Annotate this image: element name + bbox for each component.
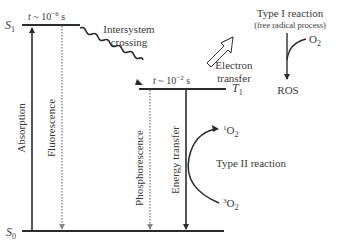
- fluorescence-arrow: Fluorescence: [45, 26, 62, 229]
- electron-transfer-arrow: Electron transfer: [207, 37, 253, 84]
- svg-text:S1: S1: [5, 18, 15, 34]
- energy-transfer-arrow: Energy transfer: [169, 90, 186, 229]
- type2-reaction: 1O2 3O2 Type II reaction: [188, 124, 286, 212]
- jablonski-diagram: S1 tt ~ 10 ~ 10−6 s T1 tt ~ 10 ~ 10−2 s …: [0, 0, 337, 246]
- electron-transfer-label-line1: Electron: [215, 59, 253, 71]
- type1-reaction: Type I reaction (free radical process) O…: [254, 7, 326, 96]
- type1-o2-label: O: [309, 33, 317, 45]
- s0-level: S0: [6, 225, 224, 241]
- type1-title: Type I reaction: [257, 7, 324, 19]
- fluorescence-label: Fluorescence: [45, 99, 57, 157]
- phosphorescence-label: Phosphorescence: [133, 130, 145, 206]
- type1-subtitle: (free radical process): [254, 20, 326, 30]
- svg-text:O2: O2: [309, 33, 321, 48]
- type2-title: Type II reaction: [216, 157, 287, 169]
- energy-transfer-label: Energy transfer: [169, 126, 181, 194]
- ros-label: ROS: [277, 84, 298, 96]
- absorption-label: Absorption: [15, 103, 27, 153]
- s1-lifetime: tt ~ 10 ~ 10−6 s: [28, 10, 65, 22]
- isc-label-line2: crossing: [111, 36, 148, 48]
- svg-text:3O2: 3O2: [223, 197, 238, 212]
- absorption-arrow: Absorption: [15, 28, 32, 231]
- t1-lifetime: tt ~ 10 ~ 10−2 s: [153, 74, 190, 86]
- s1-level: S1 tt ~ 10 ~ 10−6 s: [5, 10, 80, 34]
- phosphorescence-arrow: Phosphorescence: [133, 90, 150, 229]
- svg-text:1O2: 1O2: [223, 124, 238, 139]
- svg-text:S0: S0: [6, 225, 16, 241]
- electron-transfer-label-line2: transfer: [217, 72, 251, 84]
- isc-label-line1: Intersystem: [103, 23, 155, 35]
- intersystem-crossing-arrow: Intersystem crossing: [80, 23, 155, 85]
